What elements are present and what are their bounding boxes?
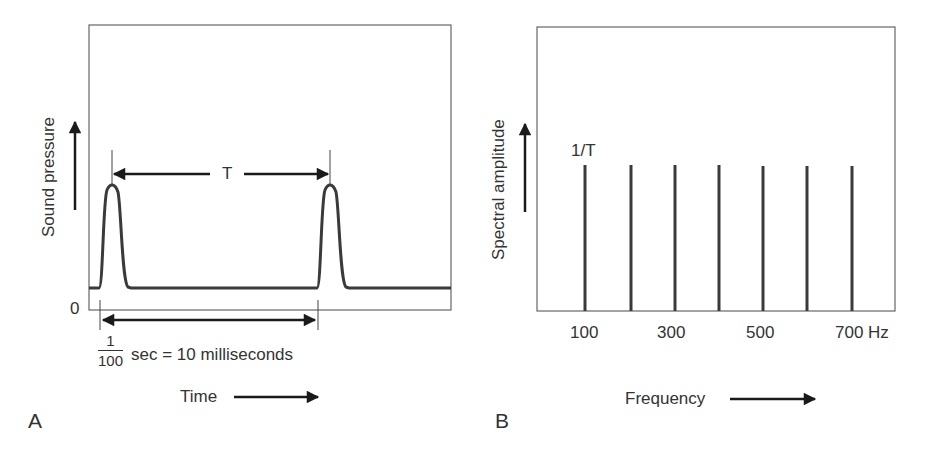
period-label: T (222, 165, 232, 182)
fraction-numerator: 1 (98, 333, 123, 351)
duration-text: sec = 10 milliseconds (131, 346, 293, 363)
panel-a-chart (75, 25, 451, 397)
panel-b-chart (525, 27, 895, 399)
duration-fraction: 1 100 (98, 333, 123, 368)
x-tick-500: 500 (746, 324, 774, 341)
panel-a-ylabel: Sound pressure (40, 117, 57, 237)
x-tick-700: 700 Hz (835, 324, 889, 341)
panel-b-xlabel: Frequency (625, 390, 705, 407)
panel-a-zero-label: 0 (70, 300, 79, 317)
panel-a-letter: A (28, 410, 42, 431)
panel-b-letter: B (495, 410, 509, 431)
spectral-lines (585, 165, 852, 311)
panel-a-xlabel: Time (180, 388, 217, 405)
x-tick-300: 300 (657, 324, 685, 341)
panel-a-frame (89, 25, 451, 310)
panel-b-frame (537, 27, 895, 311)
sound-pressure-waveform (89, 185, 451, 288)
x-tick-100: 100 (570, 324, 598, 341)
spacing-label: 1/T (571, 142, 596, 159)
figure-canvas (0, 0, 926, 458)
panel-b-ylabel: Spectral amplitude (490, 119, 507, 260)
fraction-denominator: 100 (98, 351, 123, 368)
